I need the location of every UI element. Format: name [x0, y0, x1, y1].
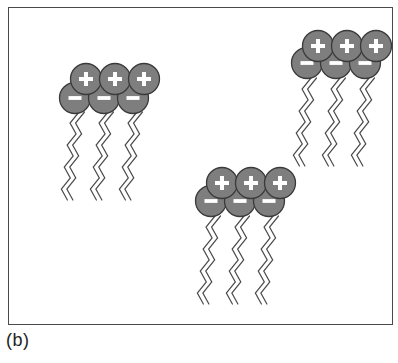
figure-root: (b)	[0, 0, 398, 363]
diagram-frame	[8, 7, 393, 325]
figure-caption-label: (b)	[6, 331, 30, 349]
